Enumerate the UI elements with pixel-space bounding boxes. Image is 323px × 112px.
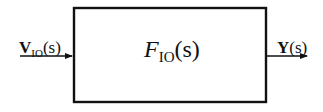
- function-argument: (s): [175, 36, 200, 62]
- function-symbol: F: [144, 36, 159, 62]
- input-signal-label: VIO(s): [19, 38, 61, 58]
- output-signal-label: Y(s): [277, 38, 307, 58]
- input-subscript: IO: [31, 47, 43, 59]
- input-symbol: V: [19, 38, 31, 57]
- transfer-function-label: FIO(s): [144, 36, 200, 63]
- output-argument: (s): [289, 38, 307, 57]
- output-symbol: Y: [277, 38, 289, 57]
- function-subscript: IO: [159, 49, 175, 65]
- input-argument: (s): [43, 38, 61, 57]
